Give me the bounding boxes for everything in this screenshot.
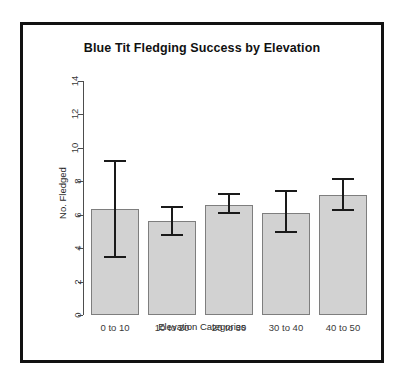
- chart-title: Blue Tit Fledging Success by Elevation: [23, 41, 381, 55]
- error-bar-cap-top: [218, 193, 240, 195]
- error-bar-line: [342, 178, 344, 211]
- error-bar-cap-bot: [275, 231, 297, 233]
- y-tick-label: 6: [72, 212, 83, 217]
- plot-area: 02468101214 0 to 1010 to 2020 to 3030 to…: [83, 81, 366, 315]
- error-bar-cap-bot: [161, 234, 183, 236]
- error-bar-cap-top: [275, 190, 297, 192]
- y-tick-label: 10: [69, 143, 80, 154]
- bar-group: [319, 81, 367, 315]
- bar-group: [205, 81, 253, 315]
- error-bar-cap-bot: [218, 212, 240, 214]
- bar-group: [91, 81, 139, 315]
- y-tick-label: 4: [72, 245, 83, 250]
- y-tick-label: 8: [72, 179, 83, 184]
- y-tick-label: 0: [72, 312, 83, 317]
- bar: [319, 195, 367, 315]
- x-axis-title: Elevation Categories: [23, 321, 381, 332]
- error-bar-line: [285, 190, 287, 233]
- error-bar-line: [171, 206, 173, 237]
- bar-group: [148, 81, 196, 315]
- error-bar-cap-bot: [104, 256, 126, 258]
- figure-frame: Blue Tit Fledging Success by Elevation N…: [20, 22, 384, 363]
- error-bar-cap-top: [161, 206, 183, 208]
- error-bar-line: [228, 193, 230, 214]
- y-tick-label: 14: [69, 76, 80, 87]
- y-tick-label: 12: [69, 109, 80, 120]
- error-bar-line: [114, 160, 116, 258]
- y-tick-label: 2: [72, 279, 83, 284]
- bar: [205, 205, 253, 315]
- error-bar-cap-top: [332, 178, 354, 180]
- error-bar-cap-top: [104, 160, 126, 162]
- bar-group: [262, 81, 310, 315]
- error-bar-cap-bot: [332, 209, 354, 211]
- y-axis-title: No. Fledged: [57, 167, 68, 219]
